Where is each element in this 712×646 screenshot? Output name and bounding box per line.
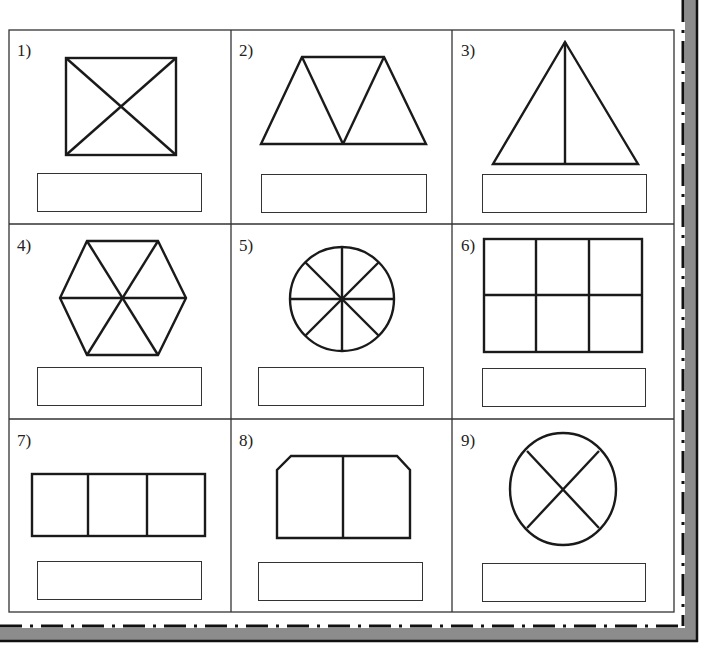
answer-box-4[interactable] bbox=[37, 367, 202, 406]
shape-8-cut-corners bbox=[277, 456, 410, 538]
problem-number-4: 4) bbox=[17, 236, 31, 256]
shape-2-trapezoid bbox=[261, 57, 426, 144]
shape-4-hexagon bbox=[60, 241, 186, 355]
answer-box-7[interactable] bbox=[37, 561, 202, 600]
worksheet-graphics bbox=[0, 0, 712, 646]
problem-number-7: 7) bbox=[17, 431, 31, 451]
shape-7-three-cells bbox=[32, 474, 205, 536]
problem-number-8: 8) bbox=[239, 431, 253, 451]
frame-bottom-band bbox=[0, 628, 697, 641]
shape-9-circle-four bbox=[510, 433, 616, 545]
shape-1-rectangle-diagonals bbox=[66, 58, 176, 155]
worksheet-page: 1) 2) 3) 4) 5) 6) 7) 8) 9) bbox=[0, 0, 712, 646]
problem-number-9: 9) bbox=[461, 431, 475, 451]
answer-box-6[interactable] bbox=[482, 368, 646, 407]
answer-box-9[interactable] bbox=[482, 563, 646, 602]
shape-3-triangle bbox=[493, 42, 638, 164]
shape-5-circle-eight bbox=[290, 247, 394, 351]
shape-6-grid-six bbox=[484, 239, 642, 352]
answer-box-2[interactable] bbox=[261, 174, 427, 213]
answer-box-5[interactable] bbox=[258, 367, 424, 406]
problem-number-1: 1) bbox=[17, 41, 31, 61]
frame-right-band bbox=[685, 0, 697, 641]
answer-box-1[interactable] bbox=[37, 173, 202, 212]
problem-number-6: 6) bbox=[461, 236, 475, 256]
problem-number-3: 3) bbox=[461, 41, 475, 61]
answer-box-3[interactable] bbox=[482, 174, 647, 213]
answer-box-8[interactable] bbox=[258, 562, 423, 601]
problem-number-2: 2) bbox=[239, 41, 253, 61]
problem-number-5: 5) bbox=[239, 236, 253, 256]
